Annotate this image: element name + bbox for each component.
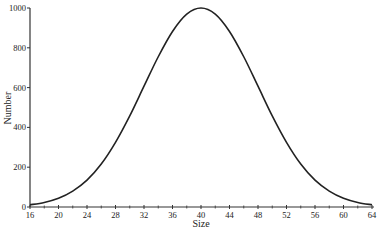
y-tick-label: 400 [13, 122, 26, 132]
normal-distribution-chart: 02004006008001000 1620242832364044485256… [0, 0, 379, 231]
x-tick-label: 56 [311, 210, 320, 220]
x-tick-label: 24 [83, 210, 92, 220]
y-axis-label: Number [2, 91, 13, 124]
x-tick-label: 36 [168, 210, 177, 220]
y-tick-label: 600 [13, 83, 26, 93]
x-tick-label: 16 [26, 210, 35, 220]
x-tick-label: 44 [225, 210, 234, 220]
x-tick-label: 48 [254, 210, 263, 220]
x-tick-label: 64 [368, 210, 377, 220]
x-tick-label: 28 [111, 210, 120, 220]
x-tick-label: 32 [140, 210, 149, 220]
distribution-curve [30, 8, 372, 205]
y-tick-label: 200 [13, 162, 26, 172]
x-tick-label: 60 [339, 210, 348, 220]
x-axis-label: Size [192, 218, 210, 229]
y-tick-label: 800 [13, 43, 26, 53]
x-tick-label: 52 [282, 210, 291, 220]
y-tick-label: 1000 [9, 3, 26, 13]
x-tick-label: 20 [54, 210, 63, 220]
